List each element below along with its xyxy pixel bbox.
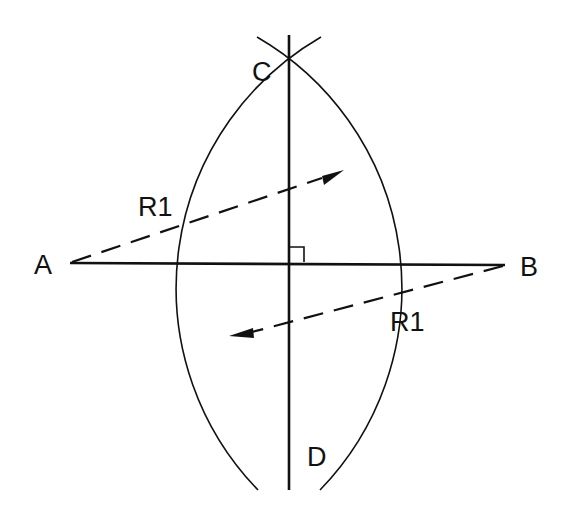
segment-ab: [70, 263, 505, 265]
diagram-canvas: A B C D R1 R1: [0, 0, 569, 519]
label-point-d: D: [307, 442, 327, 472]
label-point-c: C: [252, 57, 272, 87]
label-radius-lower: R1: [390, 307, 425, 337]
arrowhead-upper-right-icon: [322, 170, 344, 185]
radius-line-from-a: [72, 178, 322, 262]
label-radius-upper: R1: [138, 192, 173, 222]
label-point-b: B: [520, 252, 538, 282]
right-angle-marker-icon: [289, 247, 304, 262]
arrowhead-lower-left-icon: [229, 328, 254, 338]
label-point-a: A: [34, 250, 52, 280]
